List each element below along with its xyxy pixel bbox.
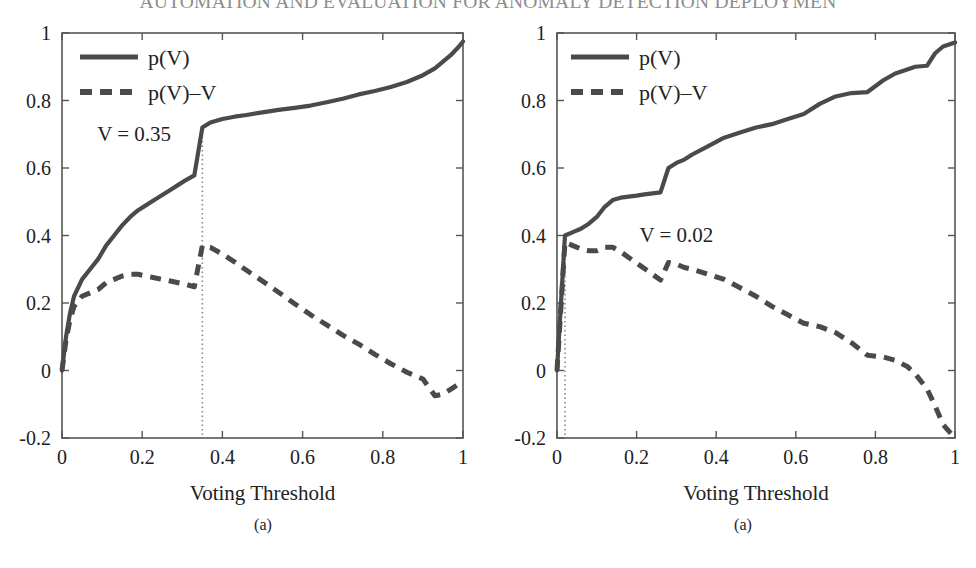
figure-panel-a: 00.20.40.60.81-0.200.20.40.60.81V = 0.35… xyxy=(0,0,494,520)
y-tick-label: 0.8 xyxy=(26,90,51,112)
x-tick-label: 0.8 xyxy=(370,446,395,468)
x-tick-label: 0.4 xyxy=(210,446,235,468)
legend-label-pv-minus-v: p(V)–V xyxy=(148,80,217,105)
x-tick-label: 1 xyxy=(950,446,960,468)
threshold-annotation: V = 0.35 xyxy=(97,122,171,146)
y-tick-label: 0 xyxy=(536,360,546,382)
plot-b: 00.20.40.60.81-0.200.20.40.60.81V = 0.02… xyxy=(494,0,976,520)
figure-panel-b: 00.20.40.60.81-0.200.20.40.60.81V = 0.02… xyxy=(494,0,976,520)
y-tick-label: 0.6 xyxy=(26,157,51,179)
x-tick-label: 0 xyxy=(552,446,562,468)
curve-pv-minus-v xyxy=(557,242,955,438)
x-tick-label: 0.2 xyxy=(130,446,155,468)
y-tick-label: 0.4 xyxy=(521,225,546,247)
x-tick-label: 0 xyxy=(57,446,67,468)
legend-label-pv-minus-v: p(V)–V xyxy=(639,80,708,105)
figure-page: AUTOMATION AND EVALUATION FOR ANOMALY DE… xyxy=(0,0,976,568)
curve-pv-minus-v xyxy=(62,246,463,396)
x-tick-label: 0.2 xyxy=(624,446,649,468)
y-tick-label: 0.8 xyxy=(521,90,546,112)
x-axis-label: Voting Threshold xyxy=(190,481,336,505)
y-tick-label: 0.4 xyxy=(26,225,51,247)
y-tick-label: 0.6 xyxy=(521,157,546,179)
threshold-annotation: V = 0.02 xyxy=(639,223,713,247)
subcaption-b: (a) xyxy=(502,516,976,534)
x-tick-label: 0.4 xyxy=(704,446,729,468)
y-tick-label: 1 xyxy=(536,22,546,44)
y-tick-label: -0.2 xyxy=(514,427,546,449)
plot-a: 00.20.40.60.81-0.200.20.40.60.81V = 0.35… xyxy=(0,0,494,520)
x-tick-label: 1 xyxy=(458,446,468,468)
y-tick-label: 0 xyxy=(41,360,51,382)
x-tick-label: 0.6 xyxy=(290,446,315,468)
x-tick-label: 0.6 xyxy=(783,446,808,468)
y-tick-label: 1 xyxy=(41,22,51,44)
y-tick-label: 0.2 xyxy=(521,292,546,314)
y-tick-label: -0.2 xyxy=(19,427,51,449)
legend-label-pv: p(V) xyxy=(148,45,190,70)
subcaption-a: (a) xyxy=(22,516,504,534)
x-tick-label: 0.8 xyxy=(863,446,888,468)
y-tick-label: 0.2 xyxy=(26,292,51,314)
x-axis-label: Voting Threshold xyxy=(683,481,829,505)
legend-label-pv: p(V) xyxy=(639,45,681,70)
